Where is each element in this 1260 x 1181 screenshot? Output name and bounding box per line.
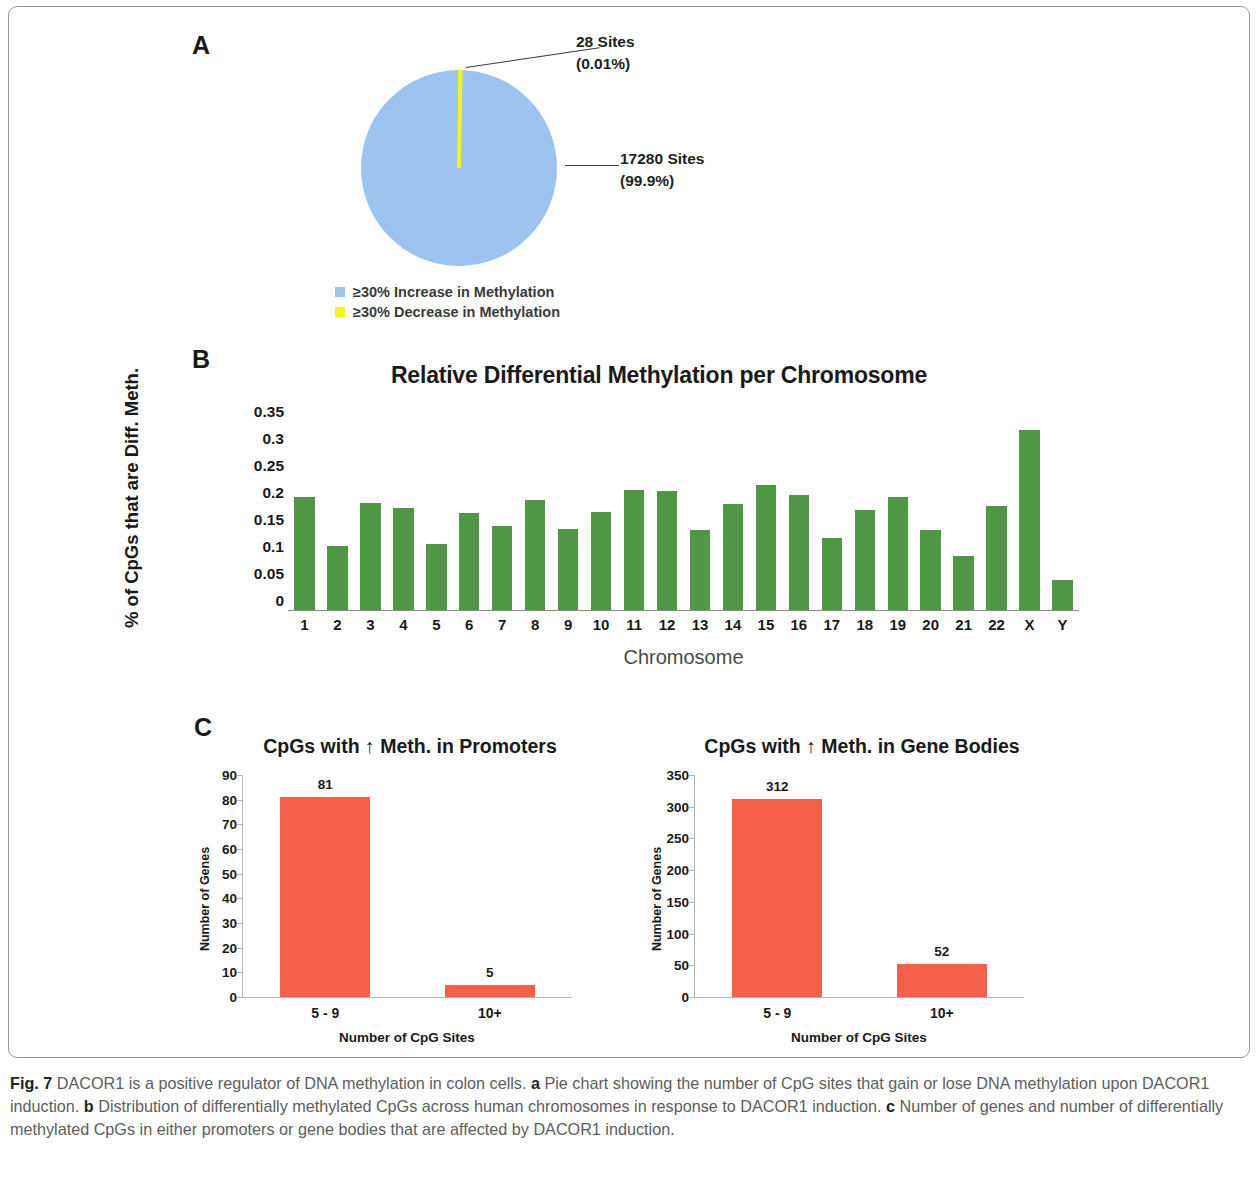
panel-b-bar (624, 490, 644, 610)
panel-b-x-tick-label: 21 (955, 616, 972, 633)
panel-b-bar (393, 508, 413, 610)
panel-b-x-tick-label: 7 (498, 616, 506, 633)
panel-b-bar (888, 497, 908, 610)
promoters-y-tick-label: 0 (229, 990, 237, 1005)
panel-b-x-tick-label: 13 (692, 616, 709, 633)
gene-bodies-y-tick-mark (689, 807, 695, 808)
panel-b-x-axis-ticks: 12345678910111213141516171819202122XY (288, 616, 1079, 640)
gene-bodies-y-tick-label: 200 (666, 863, 689, 878)
figure-frame: A 28 Sites (0.01%) 17280 Sites (99.9%) ≥… (8, 6, 1250, 1058)
gene-bodies-plot-area: 31252 (695, 775, 1024, 997)
gene-bodies-y-tick-label: 250 (666, 831, 689, 846)
panel-b-bar (756, 485, 776, 610)
gene-bodies-bar (897, 964, 987, 997)
panel-b-x-tick-label: 4 (399, 616, 407, 633)
gene-bodies-x-tick-label: 10+ (930, 1005, 954, 1021)
gene-bodies-y-tick-label: 350 (666, 768, 689, 783)
promoters-plot-area: 815 (243, 775, 572, 997)
promoters-y-tick-mark (237, 874, 243, 875)
figure-caption: Fig. 7 DACOR1 is a positive regulator of… (10, 1072, 1242, 1141)
panel-b-bar (723, 504, 743, 610)
promoters-y-tick-label: 70 (222, 817, 237, 832)
gene-bodies-y-tick-label: 100 (666, 926, 689, 941)
panel-b-y-axis-label: % of CpGs that are Diff. Meth. (121, 368, 143, 628)
gene-bodies-bar-value: 52 (934, 944, 949, 959)
promoters-y-axis-ticks: 0102030405060708090 (191, 775, 237, 997)
gene-bodies-y-tick-label: 50 (674, 958, 689, 973)
figure-caption-intro: DACOR1 is a positive regulator of DNA me… (52, 1074, 531, 1092)
panel-c-gene-bodies-chart: CpGs with ↑ Meth. in Gene Bodies Number … (637, 727, 1087, 1057)
panel-b-bar (1052, 580, 1072, 610)
panel-b-x-tick-label: 8 (531, 616, 539, 633)
gene-bodies-y-tick-mark (689, 997, 695, 998)
promoters-x-axis-label: Number of CpG Sites (242, 1030, 572, 1045)
panel-b-x-tick-label: 5 (432, 616, 440, 633)
promoters-y-tick-label: 40 (222, 891, 237, 906)
figure-caption-c-tag: c (886, 1097, 895, 1115)
figure-caption-b-text: Distribution of differentially methylate… (94, 1097, 886, 1115)
panel-b-bar (690, 530, 710, 610)
panel-b-x-tick-label: 14 (725, 616, 742, 633)
panel-b-bar (789, 495, 809, 610)
gene-bodies-y-tick-mark (689, 965, 695, 966)
panel-b-x-tick-label: X (1025, 616, 1035, 633)
panel-b-x-tick-label: 22 (988, 616, 1005, 633)
panel-b-x-axis-line (288, 610, 1079, 611)
gene-bodies-y-tick-label: 0 (681, 990, 689, 1005)
promoters-y-tick-mark (237, 849, 243, 850)
promoters-y-tick-mark (237, 898, 243, 899)
panel-b-y-tick-label: 0.3 (262, 430, 284, 448)
panel-b-y-axis-ticks: 00.050.10.150.20.250.30.35 (242, 412, 284, 610)
promoters-y-tick-label: 20 (222, 940, 237, 955)
promoters-y-tick-label: 60 (222, 842, 237, 857)
promoters-x-tick-label: 5 - 9 (311, 1005, 339, 1021)
panel-b-y-tick-label: 0.05 (254, 565, 284, 583)
promoters-y-tick-mark (237, 923, 243, 924)
promoters-x-tick-label: 10+ (478, 1005, 502, 1021)
promoters-y-tick-mark (237, 775, 243, 776)
panel-b-x-tick-label: 11 (626, 616, 642, 633)
panel-b-title: Relative Differential Methylation per Ch… (309, 362, 1009, 389)
panel-b-x-tick-label: 10 (593, 616, 610, 633)
promoters-x-axis-line (242, 997, 572, 998)
promoters-y-tick-mark (237, 800, 243, 801)
panel-b-y-tick-label: 0.25 (254, 457, 284, 475)
panel-b-x-tick-label: Y (1058, 616, 1068, 633)
panel-b-bar (492, 526, 512, 610)
panel-b-bar (1019, 430, 1039, 610)
gene-bodies-bar-value: 312 (766, 779, 789, 794)
panel-b-bar (294, 497, 314, 610)
gene-bodies-y-axis-ticks: 050100150200250300350 (643, 775, 689, 997)
panel-b-x-tick-label: 1 (300, 616, 308, 633)
gene-bodies-y-tick-mark (689, 870, 695, 871)
promoters-y-tick-label: 50 (222, 866, 237, 881)
promoters-y-tick-label: 10 (222, 965, 237, 980)
panel-b-bar (459, 513, 479, 610)
panel-b-x-tick-label: 2 (333, 616, 341, 633)
gene-bodies-bar (732, 799, 822, 997)
figure-caption-number: Fig. 7 (10, 1074, 52, 1092)
panel-b-bar (591, 512, 611, 610)
promoters-bar (280, 797, 370, 997)
panel-b-bar (327, 546, 347, 610)
promoters-y-tick-label: 30 (222, 916, 237, 931)
promoters-bar-value: 5 (486, 965, 494, 980)
panel-b-x-tick-label: 19 (889, 616, 906, 633)
gene-bodies-y-tick-mark (689, 775, 695, 776)
panel-b-x-tick-label: 15 (758, 616, 775, 633)
panel-b-x-tick-label: 17 (823, 616, 840, 633)
panel-b-bar (822, 538, 842, 610)
panel-b-y-tick-label: 0.1 (262, 538, 284, 556)
panel-b-y-tick-label: 0.2 (262, 484, 284, 502)
figure-caption-a-tag: a (531, 1074, 540, 1092)
gene-bodies-x-tick-label: 5 - 9 (763, 1005, 791, 1021)
promoters-y-tick-label: 90 (222, 768, 237, 783)
promoters-y-tick-mark (237, 948, 243, 949)
panel-b-x-tick-label: 12 (659, 616, 676, 633)
panel-b-bar (920, 530, 940, 610)
panel-b-y-tick-label: 0.15 (254, 511, 284, 529)
gene-bodies-y-tick-mark (689, 934, 695, 935)
figure-caption-b-tag: b (84, 1097, 94, 1115)
promoters-y-tick-label: 80 (222, 792, 237, 807)
panel-b-letter: B (192, 345, 210, 374)
